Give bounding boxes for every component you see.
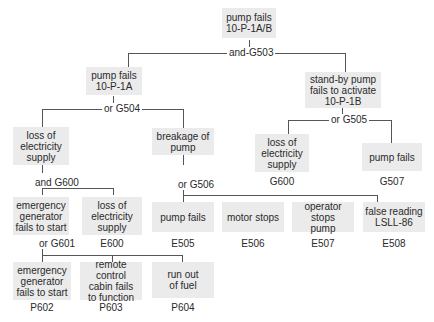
code-e507: E507 <box>292 238 354 249</box>
code-p602: P602 <box>13 302 71 313</box>
standby-fails-box: stand-by pump fails to activate 10-P-1B <box>305 72 381 108</box>
gate-g504: or G504 <box>102 103 142 114</box>
code-p604: P604 <box>152 302 214 313</box>
connector <box>345 53 346 72</box>
code-g600: G600 <box>255 176 309 187</box>
connector <box>183 195 378 196</box>
connector <box>288 120 289 134</box>
connector <box>182 255 183 262</box>
code-p603: P603 <box>80 302 142 313</box>
connector <box>113 188 114 195</box>
gate-g600: and G600 <box>33 177 81 188</box>
connector <box>42 109 43 127</box>
loss-elec-left-box: loss of electricity supply <box>13 127 69 165</box>
pump-fails-1a-box: pump fails 10-P-1A <box>86 67 142 95</box>
connector <box>183 155 184 165</box>
loss-elec-g600-box: loss of electricity supply <box>255 134 309 172</box>
connector <box>42 188 114 189</box>
connector <box>377 195 378 202</box>
false-reading-box: false reading LSLL-86 <box>363 202 425 232</box>
loss-elec-e600-box: loss of electricity supply <box>82 197 142 235</box>
top-event-box: pump fails 10-P-1A/B <box>222 8 276 38</box>
breakage-box: breakage of pump <box>152 128 214 155</box>
gate-g505: or G505 <box>329 114 369 125</box>
connector <box>128 53 129 67</box>
code-e600: E600 <box>82 238 142 249</box>
pump-fails-e505-box: pump fails <box>152 202 214 232</box>
run-out-fuel-box: run out of fuel <box>152 262 214 298</box>
code-e505: E505 <box>152 238 214 249</box>
gate-g601: or G601 <box>37 238 77 249</box>
motor-stops-box: motor stops <box>222 202 284 232</box>
gate-g503: and-G503 <box>227 47 275 58</box>
emerg-gen-p602-box: emergency generator fails to start <box>13 262 71 300</box>
emerg-gen-fails-box: emergency generator fails to start <box>13 197 69 235</box>
gate-g506: or G506 <box>176 179 216 190</box>
connector <box>183 109 184 128</box>
connector <box>42 165 43 173</box>
code-e508: E508 <box>363 238 425 249</box>
remote-control-box: remote control cabin fails to function <box>80 262 142 300</box>
code-e506: E506 <box>222 238 284 249</box>
operator-stops-box: operator stops pump <box>292 202 354 232</box>
code-g507: G507 <box>362 176 422 187</box>
pump-fails-g507-box: pump fails <box>362 143 422 171</box>
connector <box>391 120 392 143</box>
